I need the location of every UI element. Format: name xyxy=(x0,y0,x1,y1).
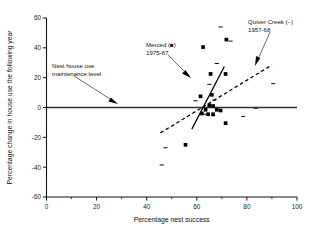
x-tick-label: 100 xyxy=(292,203,303,210)
quiver-annotation-line-0: Quiver Creek (–) xyxy=(248,18,293,25)
y-tick-label: 0 xyxy=(37,104,41,111)
y-tick-label: -40 xyxy=(32,164,42,171)
data-point-merced xyxy=(215,108,219,112)
maintenance-annotation-line-0: Nest house use xyxy=(52,62,95,69)
maintenance-annotation-arrow-shaft xyxy=(74,76,110,99)
data-point-merced xyxy=(207,103,211,107)
data-point-merced xyxy=(219,109,223,113)
quiver-annotation-line-1: 1957-68 xyxy=(248,26,271,33)
merced-annotation-line-0: Merced (■) xyxy=(146,41,176,48)
data-point-merced xyxy=(201,45,205,49)
y-tick-label: -20 xyxy=(32,134,42,141)
y-tick-label: -60 xyxy=(32,193,42,200)
data-point-merced xyxy=(206,112,210,116)
data-point-merced xyxy=(200,112,204,116)
y-axis-title: Percentage change in house use the follo… xyxy=(6,30,14,185)
merced-annotation-arrow-shaft xyxy=(168,55,184,71)
quiver-annotation-arrow-shaft xyxy=(259,32,270,57)
fit-line-quiver-creek-fit xyxy=(160,65,271,133)
data-point-merced xyxy=(199,94,203,98)
y-tick-label: 20 xyxy=(34,74,42,81)
x-tick-label: 0 xyxy=(45,203,49,210)
data-point-merced xyxy=(224,121,228,125)
chart-canvas: -60-40-200204060020406080100Nest house u… xyxy=(0,0,319,230)
x-tick-label: 20 xyxy=(93,203,101,210)
x-axis-title: Percentage nest success xyxy=(134,216,211,224)
y-tick-label: 40 xyxy=(34,44,42,51)
data-point-merced xyxy=(184,143,188,147)
x-tick-label: 40 xyxy=(143,203,151,210)
maintenance-annotation-line-1: maintenance level xyxy=(52,70,101,77)
x-tick-label: 80 xyxy=(243,203,251,210)
data-point-merced xyxy=(204,108,208,112)
figure-scatter-plot: -60-40-200204060020406080100Nest house u… xyxy=(0,0,319,230)
data-point-merced xyxy=(210,93,214,97)
data-point-merced xyxy=(211,104,215,108)
fit-line-merced-fit xyxy=(192,66,225,129)
data-point-merced xyxy=(209,72,213,76)
data-point-merced xyxy=(224,72,228,76)
quiver-annotation-arrow-head xyxy=(255,56,260,66)
merced-annotation-line-1: 1975-87 xyxy=(146,49,169,56)
data-point-merced xyxy=(225,38,229,42)
merced-annotation-arrow-head xyxy=(182,70,191,78)
x-tick-label: 60 xyxy=(193,203,201,210)
y-tick-label: 60 xyxy=(34,14,42,21)
